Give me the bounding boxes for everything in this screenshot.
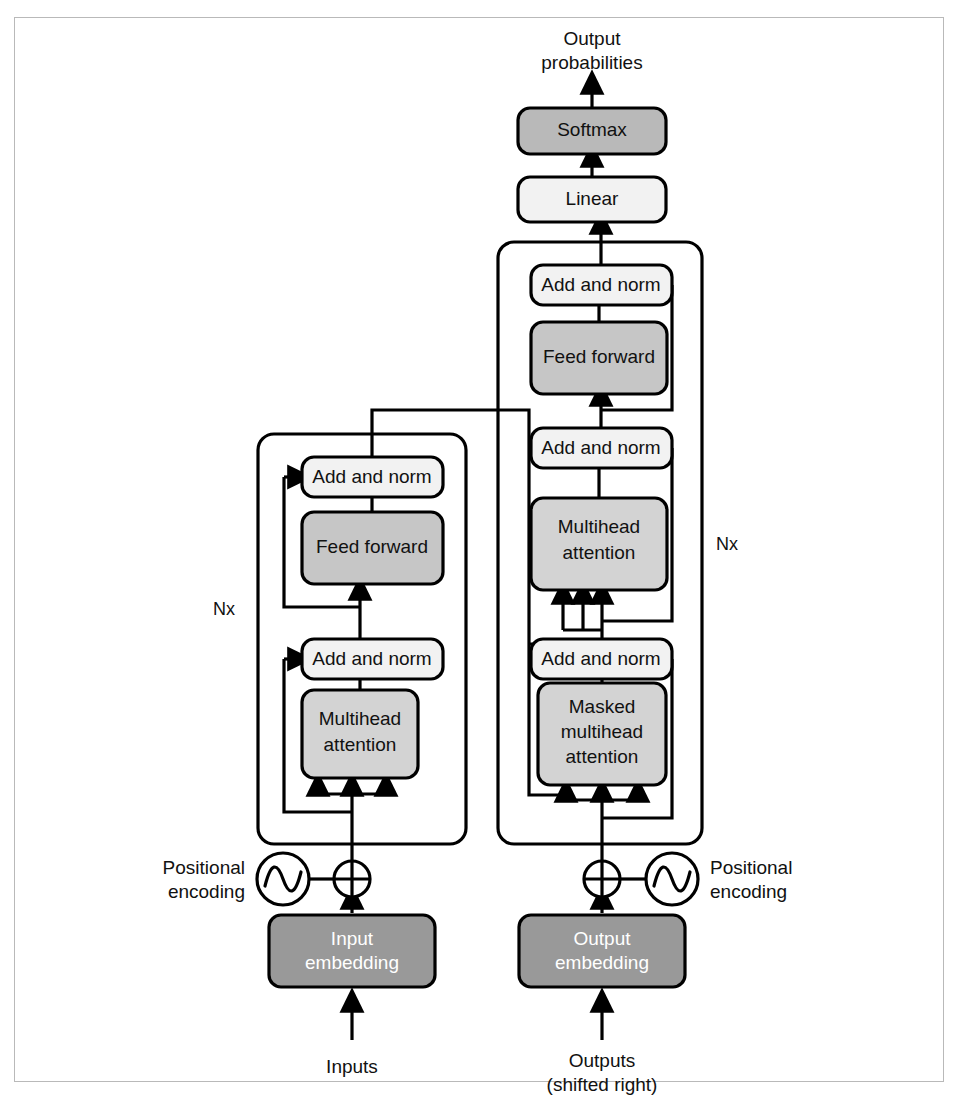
decoder-masked-attention-block: Masked multihead attention [538,683,666,785]
encoder-attention-label-line2: attention [324,734,397,755]
decoder-add-norm-upper-block: Add and norm [531,265,672,305]
decoder-cross-attention-input-arrows [563,592,602,639]
linear-block: Linear [518,177,666,222]
figure-page: Inputs Input embedding Positional encodi… [0,0,961,1115]
encoder-inputs-label: Inputs [326,1056,378,1077]
decoder-masked-attention-input-arrows [566,790,638,806]
encoder-feed-forward-label: Feed forward [316,536,428,557]
encoder-add-norm-lower-block: Add and norm [302,639,443,679]
encoder-multihead-attention-block: Multihead attention [302,690,418,778]
decoder-nx-label: Nx [716,534,738,554]
softmax-label: Softmax [557,119,627,140]
decoder-add-norm-upper-label: Add and norm [541,274,660,295]
encoder-add-norm-upper-label: Add and norm [312,466,431,487]
decoder-feed-forward-block: Feed forward [531,322,667,394]
encoder-attention-input-arrows [318,784,386,800]
output-probabilities-label-line2: probabilities [541,52,642,73]
decoder-positional-encoding-label-line1: Positional [710,857,792,878]
decoder-outputs-label-line2: (shifted right) [547,1074,658,1095]
encoder-feed-forward-block: Feed forward [302,512,443,584]
decoder-cross-attention-label-line1: Multihead [558,516,640,537]
decoder-positional-encoding-label-line2: encoding [710,881,787,902]
softmax-block: Softmax [518,108,666,154]
input-embedding-label-line1: Input [331,928,374,949]
decoder-cross-attention-block: Multihead attention [531,498,667,590]
encoder-attention-label-line1: Multihead [319,708,401,729]
encoder-add-norm-lower-label: Add and norm [312,648,431,669]
output-probabilities-label-line1: Output [563,28,621,49]
decoder-masked-attention-label-line1: Masked [569,696,636,717]
transformer-architecture-diagram: Inputs Input embedding Positional encodi… [0,0,961,1115]
decoder-masked-attention-label-line2: multihead [561,721,643,742]
encoder-positional-encoding-label-line1: Positional [163,857,245,878]
encoder-positional-encoding-label-line2: encoding [168,881,245,902]
decoder-masked-attention-label-line3: attention [566,746,639,767]
decoder-add-norm-lower-block: Add and norm [531,639,672,679]
output-embedding-label-line1: Output [573,928,631,949]
encoder-nx-label: Nx [213,599,235,619]
decoder-cross-attention-label-line2: attention [563,542,636,563]
linear-label: Linear [566,188,619,209]
decoder-feed-forward-label: Feed forward [543,346,655,367]
encoder-add-norm-upper-block: Add and norm [302,457,443,497]
decoder-sum-node [584,861,620,897]
decoder-add-norm-middle-label: Add and norm [541,437,660,458]
input-embedding-block: Input embedding [269,915,435,987]
output-embedding-block: Output embedding [519,915,685,987]
output-embedding-label-line2: embedding [555,952,649,973]
input-embedding-label-line2: embedding [305,952,399,973]
decoder-add-norm-middle-block: Add and norm [531,428,672,468]
decoder-add-norm-lower-label: Add and norm [541,648,660,669]
decoder-outputs-label-line1: Outputs [569,1050,636,1071]
encoder-positional-encoding: Positional encoding [163,853,335,905]
decoder-positional-encoding: Positional encoding [620,853,792,905]
encoder-sum-node [334,861,370,897]
